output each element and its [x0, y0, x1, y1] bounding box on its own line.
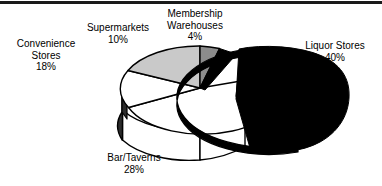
label-supermarkets-line1: Supermarkets: [82, 22, 154, 34]
label-convenience-value: 18%: [6, 61, 86, 73]
label-bar-taverns-value: 28%: [92, 164, 176, 176]
label-convenience-stores: Convenience Stores 18%: [6, 38, 86, 73]
label-membership-line1: Membership: [156, 8, 234, 20]
pie-chart-figure: Convenience Stores 18% Supermarkets 10% …: [0, 0, 382, 186]
label-supermarkets-value: 10%: [82, 34, 154, 46]
label-convenience-line2: Stores: [6, 50, 86, 62]
label-convenience-line1: Convenience: [6, 38, 86, 50]
label-bar-taverns: Bar/Taverns 28%: [92, 152, 176, 175]
label-liquor-line1: Liquor Stores: [296, 40, 374, 52]
label-liquor-stores: Liquor Stores 40%: [296, 40, 374, 63]
label-liquor-value: 40%: [296, 52, 374, 64]
label-membership-warehouses: Membership Warehouses 4%: [156, 8, 234, 43]
label-membership-line2: Warehouses: [156, 20, 234, 32]
label-bar-taverns-line1: Bar/Taverns: [92, 152, 176, 164]
label-supermarkets: Supermarkets 10%: [82, 22, 154, 45]
label-membership-value: 4%: [156, 31, 234, 43]
